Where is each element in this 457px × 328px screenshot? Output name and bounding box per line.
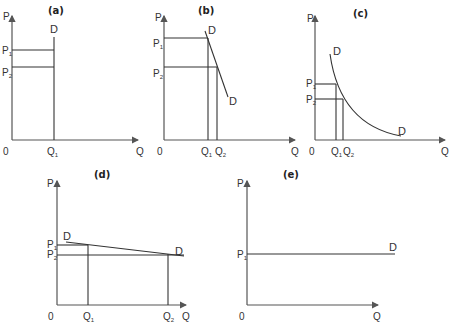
q1-label: Q1 — [201, 146, 213, 158]
y-axis-label: P — [237, 178, 244, 189]
x-axis-label: Q — [182, 311, 190, 322]
p1-label: P1 — [153, 38, 164, 50]
panel-title: (e) — [283, 169, 299, 180]
y-axis-label: P — [3, 11, 10, 22]
origin-label: 0 — [309, 146, 315, 157]
y-axis-label: P — [155, 12, 162, 23]
elasticity-diagrams: (a) P Q 0 D P1 P2 Q1 (b) P Q 0 D D P1 P2… — [0, 0, 457, 328]
demand-curve — [330, 54, 401, 136]
panel-e: (e) P Q 0 D P1 — [237, 169, 397, 322]
q2-label: Q2 — [215, 146, 227, 158]
demand-label-left: D — [63, 230, 71, 242]
q1-label: Q1 — [331, 146, 343, 158]
demand-label-top: D — [333, 45, 341, 57]
panel-b: (b) P Q 0 D D P1 P2 Q1 Q2 — [153, 5, 299, 158]
demand-curve — [66, 242, 184, 256]
panel-c: (c) P Q 0 D D P1 P2 Q1 Q2 — [306, 8, 449, 158]
q1-label: Q1 — [47, 146, 59, 158]
panel-title: (d) — [94, 169, 110, 180]
demand-label-bottom: D — [229, 95, 237, 107]
p2-label: P2 — [153, 68, 164, 80]
y-axis-label: P — [47, 178, 54, 189]
demand-label: D — [389, 241, 397, 253]
y-axis-label: P — [307, 13, 314, 24]
x-axis-label: Q — [441, 146, 449, 157]
panel-title: (c) — [353, 8, 368, 19]
origin-label: 0 — [239, 311, 245, 322]
panel-title: (b) — [198, 5, 214, 16]
q2-label: Q2 — [163, 311, 175, 323]
p1-label: P1 — [237, 249, 248, 261]
origin-label: 0 — [157, 146, 163, 157]
x-axis-label: Q — [136, 146, 144, 157]
panel-a: (a) P Q 0 D P1 P2 Q1 — [2, 5, 144, 158]
demand-label-top: D — [208, 24, 216, 36]
x-axis-label: Q — [291, 146, 299, 157]
p2-label: P2 — [2, 67, 13, 79]
q1-label: Q1 — [83, 311, 95, 323]
demand-label: D — [50, 23, 58, 35]
origin-label: 0 — [3, 146, 9, 157]
demand-label-bottom: D — [398, 125, 406, 137]
p1-label: P1 — [2, 45, 13, 57]
panel-d: (d) P Q 0 D D P1 P2 Q1 Q2 — [47, 169, 190, 323]
origin-label: 0 — [48, 311, 54, 322]
q2-label: Q2 — [343, 146, 355, 158]
panel-title: (a) — [48, 5, 64, 16]
x-axis-label: Q — [373, 311, 381, 322]
